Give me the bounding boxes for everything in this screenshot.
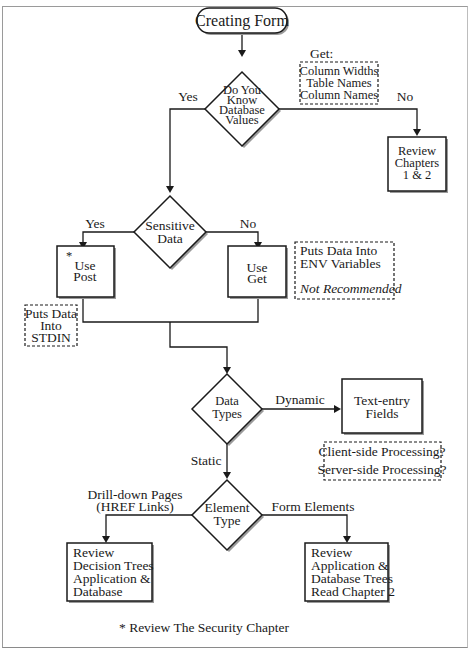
label-drill-down-line2: (HREF Links) <box>96 499 174 514</box>
annotations-layer: Drill-down Pages (HREF Links) Form Eleme… <box>0 0 474 655</box>
label-form-elements: Form Elements <box>272 499 355 514</box>
footnote-security-chapter: * Review The Security Chapter <box>119 620 289 635</box>
